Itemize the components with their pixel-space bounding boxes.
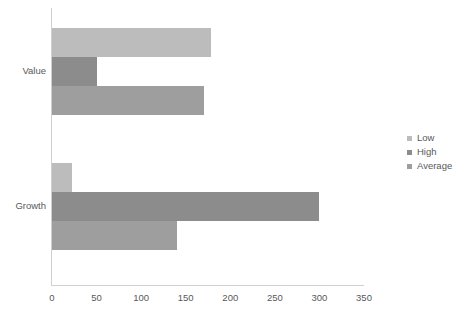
x-axis-tick-300: 300 [311, 292, 327, 303]
x-axis-line [51, 285, 364, 286]
x-axis-tick-200: 200 [222, 292, 238, 303]
x-axis-tick-150: 150 [178, 292, 194, 303]
x-axis-tick-350: 350 [356, 292, 372, 303]
x-axis-tick-100: 100 [133, 292, 149, 303]
legend-swatch-average-icon [407, 164, 412, 169]
bar-chart: Value Growth 0 50 [0, 0, 468, 314]
legend-item-average[interactable]: Average [407, 159, 452, 173]
legend-label-high: High [417, 147, 437, 157]
legend-label-average: Average [417, 161, 452, 171]
bar-group-value [52, 28, 364, 115]
bar-row-growth-average [52, 221, 364, 250]
bar-row-value-average [52, 86, 364, 115]
x-axis-tick-0: 0 [49, 292, 54, 303]
legend-swatch-high-icon [407, 150, 412, 155]
bar-value-average[interactable] [52, 86, 204, 115]
bar-growth-high[interactable] [52, 192, 319, 221]
legend-label-low: Low [417, 133, 434, 143]
x-axis-tick-50: 50 [91, 292, 102, 303]
bar-row-value-low [52, 28, 364, 57]
plot-area [52, 8, 364, 285]
chart-legend: Low High Average [407, 131, 452, 173]
y-axis-category-label-value: Value [2, 65, 46, 76]
bar-growth-average[interactable] [52, 221, 177, 250]
legend-item-low[interactable]: Low [407, 131, 452, 145]
bar-value-low[interactable] [52, 28, 211, 57]
x-axis-tick-250: 250 [267, 292, 283, 303]
bar-group-growth [52, 163, 364, 250]
bar-row-growth-high [52, 192, 364, 221]
y-axis-category-label-growth: Growth [2, 200, 46, 211]
bar-row-value-high [52, 57, 364, 86]
legend-item-high[interactable]: High [407, 145, 452, 159]
bar-growth-low[interactable] [52, 163, 72, 192]
legend-swatch-low-icon [407, 136, 412, 141]
bar-row-growth-low [52, 163, 364, 192]
bar-value-high[interactable] [52, 57, 97, 86]
